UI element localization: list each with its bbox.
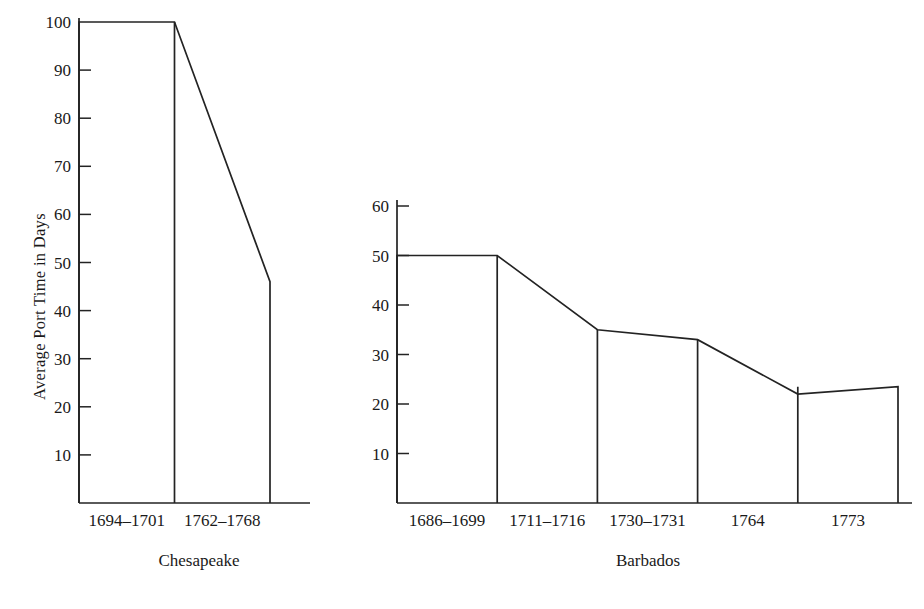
- y-axis-tick-label: 100: [27, 14, 71, 31]
- x-axis-category-label: 1773: [798, 512, 898, 529]
- y-axis-tick-label: 50: [345, 248, 389, 265]
- y-axis-tick-label: 30: [345, 347, 389, 364]
- bar-separator: [497, 256, 798, 504]
- x-axis-category-label: 1694–1701: [79, 512, 175, 529]
- y-axis-tick-label: 90: [27, 62, 71, 79]
- y-axis-tick-label: 20: [345, 396, 389, 413]
- y-axis-tick-label: 80: [27, 110, 71, 127]
- x-axis-category-label: 1730–1731: [597, 512, 697, 529]
- y-axis-tick-label: 70: [27, 158, 71, 175]
- x-axis-category-label: 1711–1716: [497, 512, 597, 529]
- y-axis-tick-label: 60: [345, 198, 389, 215]
- y-axis-tick-label: 40: [345, 297, 389, 314]
- y-axis-tick-label: 10: [27, 447, 71, 464]
- y-axis-tick-label: 10: [345, 446, 389, 463]
- y-axis-tick-label: 40: [27, 303, 71, 320]
- y-axis-tick-label: 20: [27, 399, 71, 416]
- y-axis-tick-label: 30: [27, 351, 71, 368]
- panel-caption: Chesapeake: [69, 552, 329, 569]
- port-time-bar-chart-figure: Average Port Time in Days 10203040506070…: [0, 0, 924, 609]
- x-axis-category-label: 1762–1768: [175, 512, 271, 529]
- x-axis-category-label: 1764: [698, 512, 798, 529]
- bar-outline: [397, 256, 898, 504]
- y-axis-tick-label: 50: [27, 255, 71, 272]
- x-axis-category-label: 1686–1699: [397, 512, 497, 529]
- panel-caption: Barbados: [518, 552, 778, 569]
- y-axis-tick-label: 60: [27, 206, 71, 223]
